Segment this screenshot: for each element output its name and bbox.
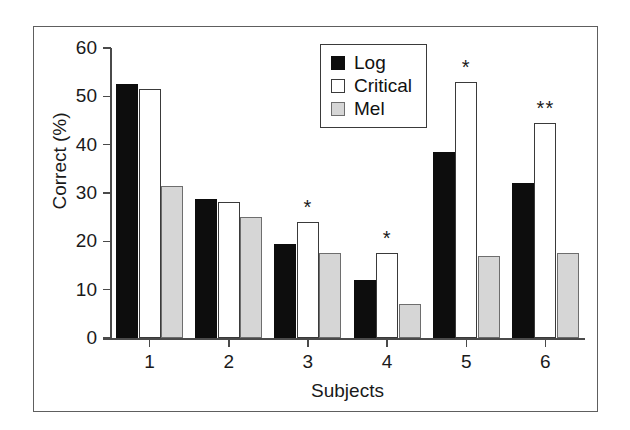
x-axis-tick-label: 2 <box>199 352 259 371</box>
y-axis-tick-label: 0 <box>37 328 97 347</box>
figure-canvas: 0102030405060 123456 ***** Correct (%) S… <box>0 0 630 430</box>
legend-label: Mel <box>354 99 385 118</box>
legend-label: Critical <box>354 76 412 95</box>
legend-label: Log <box>354 53 386 72</box>
y-axis-tick-label-wrap: 0 <box>35 338 97 339</box>
significance-marker-subject-4: * <box>357 228 417 248</box>
y-axis-tick-label-wrap: 60 <box>35 48 97 49</box>
bar-mel-subject-2 <box>240 217 262 338</box>
significance-marker-subject-5: * <box>436 57 496 77</box>
x-axis-tick <box>307 338 309 347</box>
x-axis-tick <box>386 338 388 347</box>
bar-mel-subject-3 <box>319 253 341 338</box>
x-axis-tick-label: 3 <box>278 352 338 371</box>
bar-log-subject-1 <box>116 84 138 338</box>
legend-item-log: Log <box>331 51 412 74</box>
y-axis-tick <box>103 144 111 146</box>
y-axis-tick <box>103 192 111 194</box>
legend-swatch-critical-icon <box>331 79 345 93</box>
x-axis-tick <box>228 338 230 347</box>
y-axis-tick-label-wrap: 10 <box>35 290 97 291</box>
bar-critical-subject-5 <box>455 82 477 338</box>
bar-mel-subject-1 <box>161 186 183 338</box>
x-axis-tick <box>149 338 151 347</box>
x-axis-tick <box>466 338 468 347</box>
y-axis-tick <box>103 96 111 98</box>
x-axis-tick-label: 6 <box>515 352 575 371</box>
bar-critical-subject-6 <box>534 123 556 338</box>
x-axis-tick-label: 5 <box>436 352 496 371</box>
legend: LogCriticalMel <box>320 44 427 128</box>
x-axis-line <box>103 338 585 340</box>
bar-mel-subject-4 <box>399 304 421 338</box>
y-axis-tick-label: 60 <box>37 38 97 57</box>
x-axis-tick <box>545 338 547 347</box>
significance-marker-subject-6: ** <box>515 98 575 118</box>
bar-critical-subject-2 <box>218 202 240 338</box>
bar-critical-subject-4 <box>376 253 398 338</box>
bar-log-subject-4 <box>354 280 376 338</box>
legend-swatch-mel-icon <box>331 102 345 116</box>
bar-mel-subject-5 <box>478 256 500 338</box>
x-axis-tick-label: 1 <box>120 352 180 371</box>
bar-log-subject-5 <box>433 152 455 338</box>
bar-log-subject-6 <box>512 183 534 338</box>
legend-item-mel: Mel <box>331 97 412 120</box>
y-axis-tick <box>103 241 111 243</box>
legend-swatch-log-icon <box>331 56 345 70</box>
bar-log-subject-3 <box>274 244 296 338</box>
y-axis-tick <box>103 289 111 291</box>
bar-critical-subject-3 <box>297 222 319 338</box>
bar-critical-subject-1 <box>139 89 161 338</box>
y-axis-label: Correct (%) <box>49 71 71 251</box>
significance-marker-subject-3: * <box>278 197 338 217</box>
y-axis-tick <box>103 47 111 49</box>
bar-mel-subject-6 <box>557 253 579 338</box>
x-axis-label: Subjects <box>110 380 585 402</box>
bar-log-subject-2 <box>195 199 217 338</box>
y-axis-tick <box>103 337 111 339</box>
y-axis-tick-label: 10 <box>37 280 97 299</box>
legend-item-critical: Critical <box>331 74 412 97</box>
x-axis-tick-label: 4 <box>357 352 417 371</box>
